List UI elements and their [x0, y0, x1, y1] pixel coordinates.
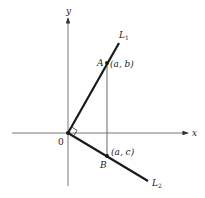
origin-point	[66, 131, 70, 135]
line-l1	[68, 43, 119, 133]
point-a	[105, 61, 109, 65]
point-a-label: A	[96, 58, 104, 68]
line-l2-label: L2	[151, 178, 162, 189]
point-b-label: B	[99, 160, 107, 170]
perpendicular-lines-diagram: y x 0 L1 L2 A (a, b) B (a, c)	[0, 0, 205, 198]
point-a-coords: (a, b)	[110, 59, 134, 69]
origin-label: 0	[58, 137, 64, 147]
point-b	[105, 154, 109, 158]
point-b-coords: (a, c)	[111, 147, 135, 157]
y-axis-label: y	[65, 6, 72, 16]
line-l1-label: L1	[118, 30, 129, 41]
x-axis-label: x	[192, 128, 197, 138]
